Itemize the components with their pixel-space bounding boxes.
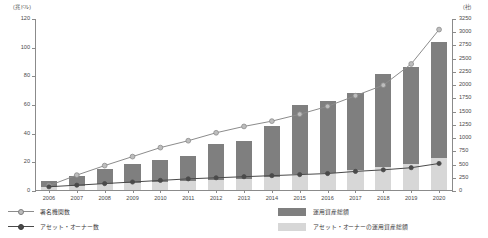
right-axis-tick-label: 3000 <box>459 29 488 35</box>
legend-lines: 署名機関数 アセット・オーナー数 <box>8 205 99 233</box>
left-axis-unit-label: (兆ドル) <box>13 3 31 10</box>
right-axis-tick-label: 1500 <box>459 109 488 115</box>
right-axis-tick-label: 1250 <box>459 122 488 128</box>
point-asset-owners <box>326 171 330 175</box>
line-series-group <box>35 19 453 191</box>
x-axis-tick <box>411 190 412 193</box>
x-axis-tick <box>105 190 106 193</box>
point-signatories <box>297 112 302 117</box>
x-axis-tick <box>188 190 189 193</box>
right-axis-tick-label: 0 <box>459 188 488 194</box>
x-axis-tick <box>272 190 273 193</box>
right-axis-unit-label: (社) <box>463 3 471 10</box>
legend-item-signatories: 署名機関数 <box>8 205 99 218</box>
left-axis-tick <box>32 191 36 192</box>
x-axis-tick <box>383 190 384 193</box>
point-signatories <box>130 154 135 159</box>
x-axis-tick <box>216 190 217 193</box>
right-axis-tick-label: 2750 <box>459 42 488 48</box>
point-asset-owners <box>242 175 246 179</box>
right-axis-tick-label: 2250 <box>459 69 488 75</box>
legend-item-asset-owners: アセット・オーナー数 <box>8 220 99 233</box>
point-asset-owners <box>75 183 79 187</box>
right-axis-tick-label: 3250 <box>459 16 488 22</box>
left-axis-tick-label: 120 <box>4 16 30 22</box>
point-asset-owners <box>214 176 218 180</box>
point-signatories <box>353 93 358 98</box>
line-marker-icon <box>8 223 34 231</box>
point-signatories <box>325 104 330 109</box>
left-axis-tick-label: 60 <box>4 102 30 108</box>
point-signatories <box>269 119 274 124</box>
x-axis-tick <box>244 190 245 193</box>
x-axis-label: 2020 <box>419 195 459 201</box>
point-asset-owners <box>409 166 413 170</box>
point-asset-owners <box>353 169 357 173</box>
left-axis-tick-label: 0 <box>4 188 30 194</box>
point-signatories <box>214 130 219 135</box>
point-signatories <box>242 124 247 129</box>
point-signatories <box>102 163 107 168</box>
point-signatories <box>74 173 79 178</box>
line-signatories <box>49 30 439 186</box>
x-axis-tick <box>328 190 329 193</box>
right-axis-tick-label: 2500 <box>459 56 488 62</box>
right-axis-tick-label: 750 <box>459 148 488 154</box>
legend-label-aum-total: 運用資産総額 <box>313 207 348 216</box>
left-axis-tick-label: 80 <box>4 73 30 79</box>
x-axis-tick <box>49 190 50 193</box>
line-marker-icon <box>8 208 34 216</box>
legend-label-asset-owners: アセット・オーナー数 <box>40 222 99 231</box>
point-signatories <box>437 27 442 32</box>
x-axis-tick <box>160 190 161 193</box>
legend-item-aum-total: 運用資産総額 <box>278 205 407 218</box>
x-axis-tick <box>133 190 134 193</box>
point-asset-owners <box>158 178 162 182</box>
right-axis-tick-label: 2000 <box>459 82 488 88</box>
point-asset-owners <box>437 161 441 165</box>
plot-area: 020406080100120 025050075010001250150017… <box>35 19 453 191</box>
right-axis-tick-label: 500 <box>459 162 488 168</box>
bar-swatch-icon <box>278 208 306 216</box>
point-asset-owners <box>47 185 51 189</box>
point-asset-owners <box>103 181 107 185</box>
point-signatories <box>186 138 191 143</box>
pri-growth-chart: (兆ドル) (社) 020406080100120 02505007501000… <box>0 0 488 238</box>
legend-label-signatories: 署名機関数 <box>40 207 70 216</box>
left-axis-tick-label: 20 <box>4 159 30 165</box>
x-axis-tick <box>77 190 78 193</box>
left-axis-tick-label: 40 <box>4 131 30 137</box>
legend-item-aum-owner: アセット・オーナーの運用資産総額 <box>278 220 407 233</box>
right-axis-tick-label: 1750 <box>459 95 488 101</box>
point-asset-owners <box>130 180 134 184</box>
x-axis-tick <box>439 190 440 193</box>
legend-bars: 運用資産総額 アセット・オーナーの運用資産総額 <box>278 205 407 233</box>
left-axis-tick-label: 100 <box>4 45 30 51</box>
point-asset-owners <box>270 174 274 178</box>
bar-swatch-icon <box>278 223 306 231</box>
point-signatories <box>381 83 386 88</box>
point-signatories <box>158 145 163 150</box>
point-asset-owners <box>298 172 302 176</box>
right-axis-tick-label: 250 <box>459 175 488 181</box>
legend-label-aum-owner: アセット・オーナーの運用資産総額 <box>313 222 407 231</box>
point-asset-owners <box>381 168 385 172</box>
point-asset-owners <box>186 177 190 181</box>
right-axis-tick-label: 1000 <box>459 135 488 141</box>
point-signatories <box>409 62 414 67</box>
right-axis-tick <box>452 191 456 192</box>
x-axis-tick <box>300 190 301 193</box>
x-axis-tick <box>355 190 356 193</box>
